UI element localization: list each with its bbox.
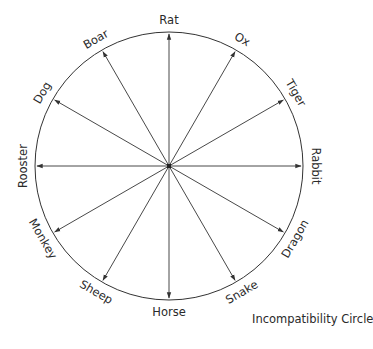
center-hub: [167, 164, 171, 168]
sign-label-rat: Rat: [159, 13, 179, 27]
sign-label-horse: Horse: [152, 305, 185, 319]
spoke-arrow-snake: [169, 166, 235, 280]
spoke-arrow-boar: [103, 52, 169, 166]
spoke-arrow-sheep: [103, 166, 169, 280]
spoke-arrow-tiger: [169, 100, 283, 166]
sign-label-ox: Ox: [232, 29, 253, 49]
spoke-arrow-monkey: [55, 166, 169, 232]
sign-label-snake: Snake: [223, 277, 260, 307]
sign-label-dragon: Dragon: [278, 217, 311, 261]
sign-label-rooster: Rooster: [16, 144, 30, 188]
spoke-arrow-dragon: [169, 166, 283, 232]
sign-label-boar: Boar: [81, 26, 111, 52]
spoke-arrow-ox: [169, 52, 235, 166]
sign-label-tiger: Tiger: [282, 76, 309, 109]
spoke-arrow-dog: [55, 100, 169, 166]
sign-label-sheep: Sheep: [77, 277, 115, 307]
sign-label-dog: Dog: [30, 79, 54, 106]
sign-label-rabbit: Rabbit: [309, 147, 323, 185]
diagram-caption: Incompatibility Circle: [252, 312, 373, 326]
sign-label-monkey: Monkey: [26, 216, 60, 262]
